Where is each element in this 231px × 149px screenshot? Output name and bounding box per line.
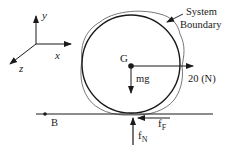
system-boundary-label-line2: Boundary: [180, 20, 221, 31]
friction-force-label: fF: [158, 118, 166, 132]
x-axis-label: x: [55, 50, 60, 61]
center-label-g: G: [120, 53, 128, 64]
z-axis-arrow: [10, 44, 36, 64]
z-axis-label: z: [19, 63, 23, 74]
system-boundary-label-line1: System: [186, 7, 217, 18]
point-b-dot: [43, 112, 47, 116]
applied-force-label: 20 (N): [188, 74, 216, 85]
free-body-diagram: y x z System Boundary G mg 20 (N) B fF f…: [0, 0, 231, 149]
coordinate-axes: [10, 16, 71, 64]
weight-label: mg: [136, 74, 149, 85]
normal-force-label: fN: [138, 130, 147, 144]
point-b-label: B: [51, 118, 58, 129]
y-axis-label: y: [42, 10, 47, 21]
